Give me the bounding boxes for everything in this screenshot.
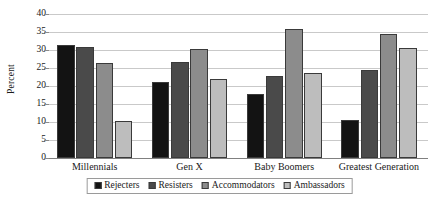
bar-group [341,14,416,158]
legend-swatch-icon [149,182,156,189]
legend-label: Resisters [159,181,193,191]
bar-group [247,14,322,158]
legend-item: Ambassadors [284,181,345,191]
bar [57,45,75,158]
legend-swatch-icon [94,182,101,189]
legend-swatch-icon [202,182,209,189]
bar [96,63,114,158]
bar [171,62,189,158]
bar [304,73,322,158]
legend-item: Resisters [149,181,193,191]
bar [190,49,208,158]
x-axis-label: Greatest Generation [339,160,419,173]
x-axis-label: Baby Boomers [254,160,314,173]
legend-label: Accommodators [212,181,275,191]
bar [247,94,265,158]
bar [115,121,133,158]
bar [266,76,284,158]
legend-swatch-icon [284,182,291,189]
legend-label: Ambassadors [294,181,345,191]
plot-area [49,14,428,159]
y-axis-title: Percent [2,0,20,158]
bar-group [152,14,227,158]
x-axis-category-labels: MillennialsGen XBaby BoomersGreatest Gen… [49,160,428,176]
bar [399,48,417,158]
gridline-0 [49,158,428,159]
bar [341,120,359,158]
bar [361,70,379,158]
legend-item: Rejecters [94,181,139,191]
bar [76,47,94,158]
bar [380,34,398,158]
x-axis-label: Gen X [176,160,202,173]
y-axis-tick-labels: 0510152025303540 [20,14,46,158]
bar [152,82,170,158]
bar [210,79,228,158]
bar-chart: Percent 0510152025303540 MillennialsGen … [0,0,439,207]
y-axis-title-label: Percent [6,64,16,94]
legend-label: Rejecters [104,181,139,191]
bar [285,29,303,158]
bar-group [57,14,132,158]
y-tick-mark-0 [44,158,49,159]
chart-legend: RejectersResistersAccommodatorsAmbassado… [86,178,353,194]
legend-item: Accommodators [202,181,275,191]
x-axis-label: Millennials [72,160,118,173]
bars-layer [49,14,428,158]
